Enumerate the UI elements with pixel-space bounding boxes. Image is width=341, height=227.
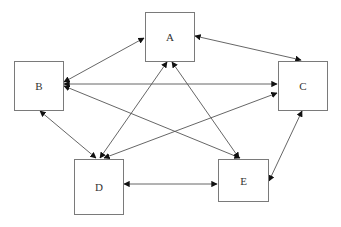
edge-a-d — [100, 62, 167, 158]
node-a-label: A — [166, 31, 174, 43]
node-c: C — [278, 61, 328, 111]
edge-b-d — [40, 111, 96, 158]
node-b-label: B — [35, 80, 42, 92]
edge-a-b — [64, 38, 144, 82]
node-a: A — [145, 12, 195, 62]
node-c-label: C — [299, 80, 306, 92]
node-d-label: D — [95, 181, 103, 193]
edge-c-d — [104, 93, 277, 158]
node-b: B — [14, 61, 64, 111]
edge-c-e — [269, 111, 302, 181]
node-e-label: E — [240, 175, 247, 187]
edge-a-c — [195, 36, 301, 60]
node-d: D — [74, 159, 124, 215]
node-e: E — [218, 159, 269, 202]
